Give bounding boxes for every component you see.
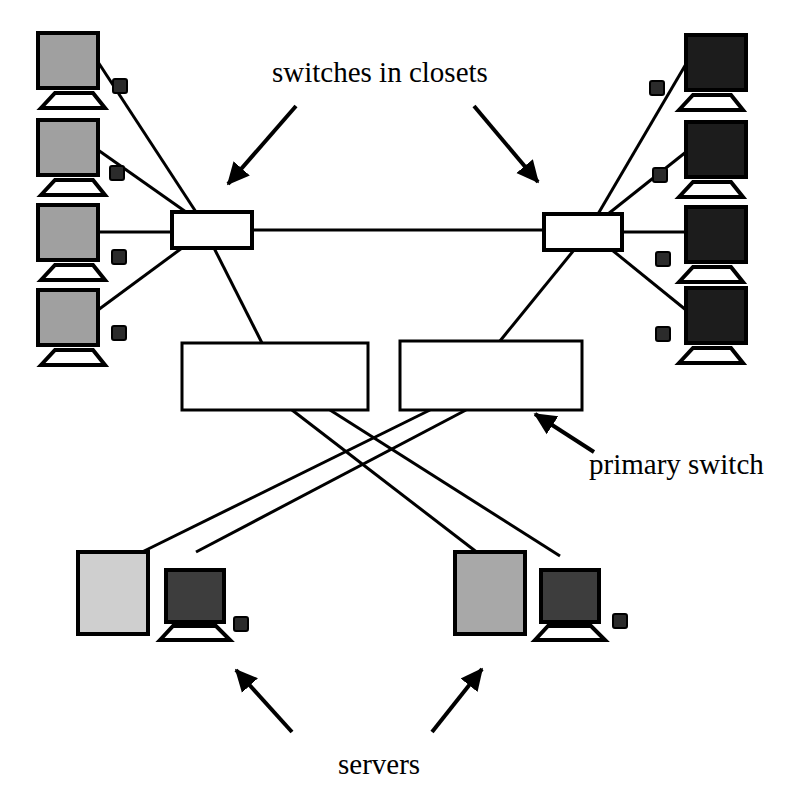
primary-switch-left[interactable] <box>182 343 368 410</box>
label-primary-switch: primary switch <box>589 450 764 479</box>
primary-switch-right[interactable] <box>400 341 582 410</box>
cable-node-right-2 <box>653 168 667 182</box>
cable-node-left-2 <box>110 166 124 180</box>
diagram-canvas: switches in closets primary switch serve… <box>0 0 807 802</box>
cable-node-right-3 <box>656 252 670 266</box>
server-monitor-screen-icon <box>166 570 224 622</box>
monitor-stand-icon <box>41 350 105 365</box>
monitor-screen-icon <box>38 205 98 260</box>
server-monitor-stand-icon <box>160 626 230 640</box>
right-workstation-4[interactable] <box>679 288 746 363</box>
cable-right-1 <box>598 64 686 214</box>
left-workstation-4[interactable] <box>38 290 105 365</box>
monitor-screen-icon <box>38 120 98 175</box>
cable-right-4 <box>612 250 686 310</box>
cable-primary-right-to-server-left-b <box>196 410 466 552</box>
cable-left-closet-to-primary <box>214 248 262 343</box>
monitor-screen-icon <box>686 35 746 90</box>
right-workstation-2[interactable] <box>679 122 746 197</box>
monitor-screen-icon <box>686 122 746 177</box>
cable-node-server-left <box>234 617 248 631</box>
primary-to-server-cables <box>134 410 560 560</box>
left-workstation-1[interactable] <box>38 33 105 108</box>
arrow-to-right-server <box>432 669 482 732</box>
server-tower-icon <box>78 552 148 634</box>
monitor-screen-icon <box>38 290 98 345</box>
left-workstation-cluster <box>38 33 105 365</box>
monitor-screen-icon <box>38 33 98 88</box>
closet-switch-left[interactable] <box>172 212 252 248</box>
cable-left-4 <box>98 248 182 310</box>
server-monitor-stand-icon <box>535 626 605 640</box>
right-uplink-cables <box>598 64 686 310</box>
monitor-stand-icon <box>679 95 743 110</box>
server-left[interactable] <box>78 552 230 640</box>
cable-primary-left-to-server-right-b <box>330 410 560 556</box>
cable-node-right-1 <box>650 81 664 95</box>
left-workstation-2[interactable] <box>38 120 105 195</box>
monitor-stand-icon <box>679 182 743 197</box>
closet-to-primary-cables <box>214 248 574 343</box>
closet-switch-right[interactable] <box>544 214 622 250</box>
left-uplink-cables <box>98 62 196 310</box>
monitor-stand-icon <box>41 265 105 280</box>
monitor-stand-icon <box>679 267 743 282</box>
arrow-to-primary-switch <box>535 414 594 452</box>
server-right[interactable] <box>455 552 605 640</box>
right-workstation-3[interactable] <box>679 207 746 282</box>
server-monitor-screen-icon <box>541 570 599 622</box>
right-workstation-1[interactable] <box>679 35 746 110</box>
cable-node-left-4 <box>112 326 126 340</box>
cable-left-2 <box>98 150 186 212</box>
monitor-stand-icon <box>41 180 105 195</box>
monitor-screen-icon <box>686 207 746 262</box>
primary-switches <box>182 341 582 410</box>
monitor-stand-icon <box>679 348 743 363</box>
cable-right-closet-to-primary <box>500 250 574 341</box>
server-tower-icon <box>455 552 525 634</box>
monitor-screen-icon <box>686 288 746 343</box>
cable-node-left-3 <box>112 250 126 264</box>
cable-right-2 <box>608 152 686 214</box>
cable-node-server-right <box>613 614 627 628</box>
cable-node-left-1 <box>113 79 127 93</box>
arrow-to-right-closet-switch <box>474 106 538 182</box>
left-workstation-3[interactable] <box>38 205 105 280</box>
arrow-to-left-closet-switch <box>228 106 296 184</box>
arrow-to-left-server <box>236 670 292 732</box>
cable-node-right-4 <box>656 327 670 341</box>
label-servers: servers <box>338 750 420 779</box>
label-switches-in-closets: switches in closets <box>272 58 488 87</box>
monitor-stand-icon <box>41 93 105 108</box>
network-diagram <box>0 0 807 802</box>
right-workstation-cluster <box>679 35 746 363</box>
